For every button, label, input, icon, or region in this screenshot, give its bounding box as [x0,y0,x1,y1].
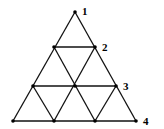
edge-diag-left-2 [95,86,116,121]
grid-nodes [11,10,138,123]
row-label-2: 2 [102,41,108,53]
triangular-grid-diagram: 1 2 3 4 [0,0,164,129]
node-r3c2 [73,84,77,88]
row-label-4: 4 [143,115,149,127]
node-r4c2 [52,119,56,123]
row-label-1: 1 [82,5,88,17]
node-r4c1 [11,119,15,123]
row-labels: 1 2 3 4 [82,5,149,127]
row-label-3: 3 [123,80,129,92]
grid-edges [13,12,136,121]
node-r2c2 [93,45,97,49]
node-r1c1 [73,10,77,14]
node-r4c3 [93,119,97,123]
node-r3c3 [114,84,118,88]
node-r2c1 [52,45,56,49]
node-r4c4 [134,119,138,123]
edge-diag-right-2 [33,86,54,121]
node-r3c1 [31,84,35,88]
